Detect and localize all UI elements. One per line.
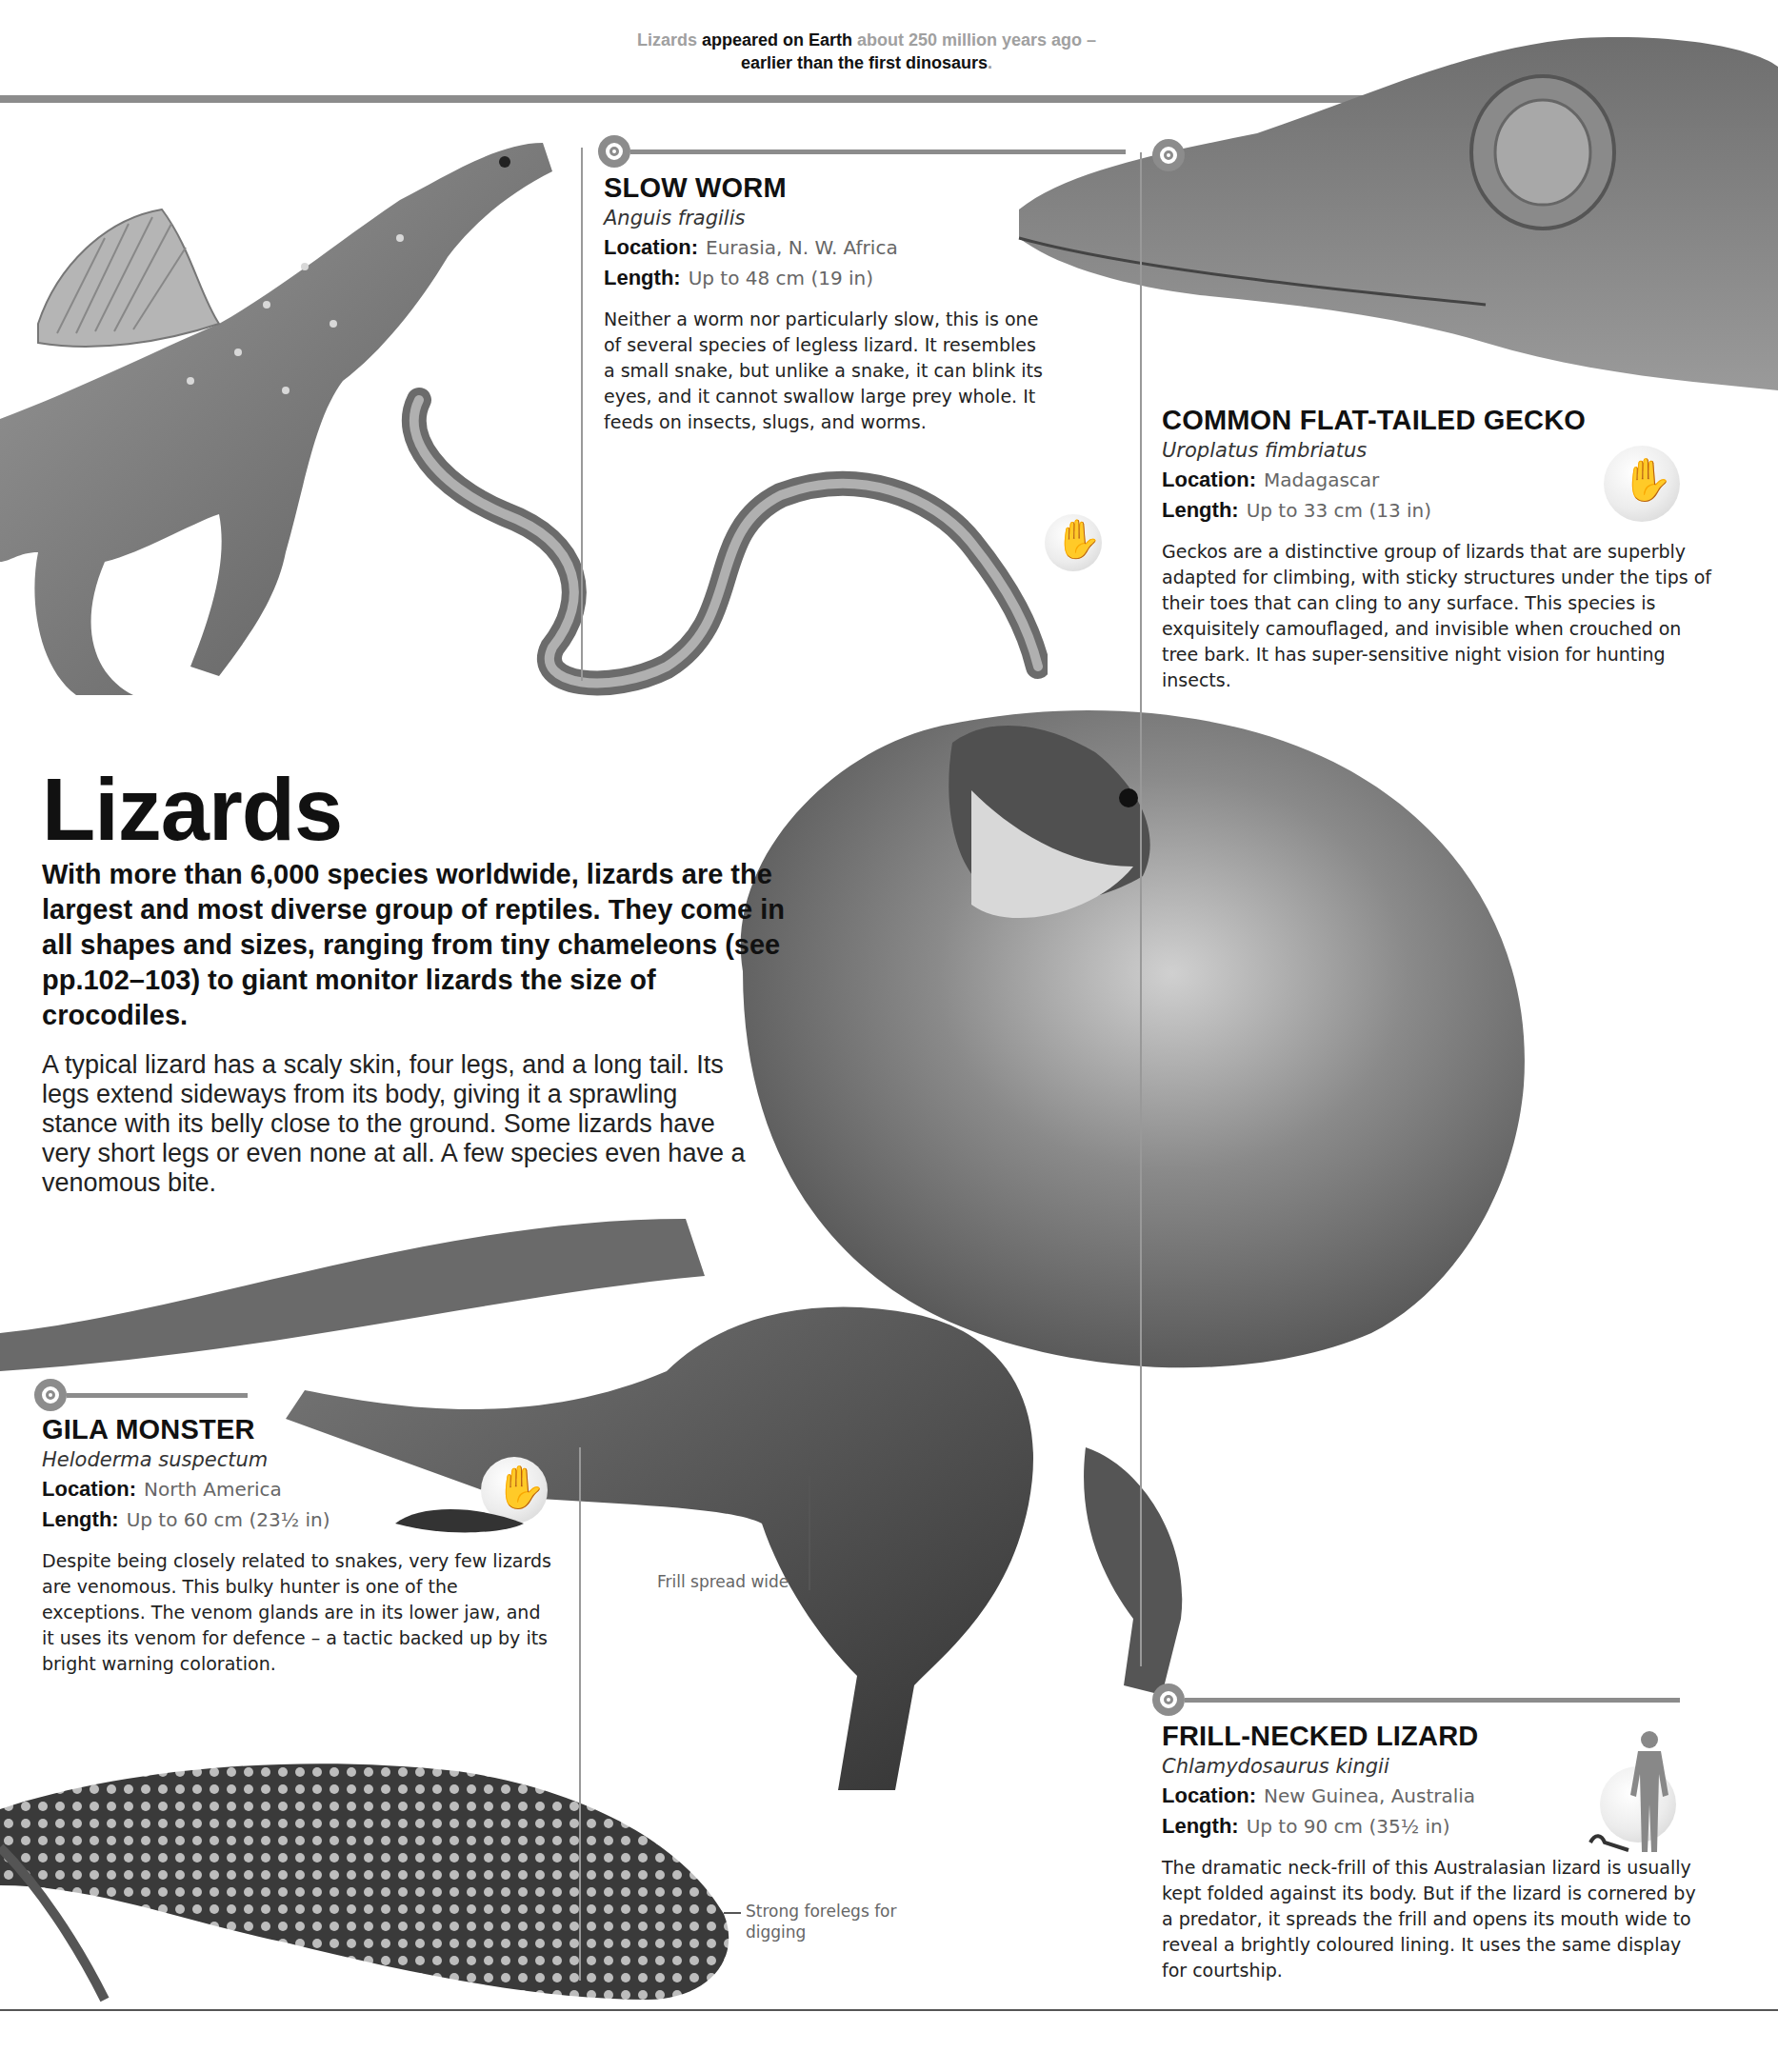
- caption-forelegs: Strong forelegs for digging: [746, 1901, 898, 1942]
- divider-line: [581, 148, 583, 681]
- marker-line: [630, 149, 1126, 154]
- entry-name: SLOW WORM: [604, 171, 1051, 204]
- gila-monster-image: [0, 1695, 781, 2019]
- gecko-marker: [1152, 139, 1185, 171]
- fact-part: Lizards: [637, 30, 702, 50]
- caption-pointer-line: [809, 1476, 810, 1590]
- hand-size-comparison-icon: ✋: [1604, 446, 1680, 522]
- marker-line: [67, 1393, 248, 1398]
- location-label: Location:: [1162, 468, 1256, 491]
- hand-icon: ✋: [1621, 459, 1673, 501]
- entry-name: COMMON FLAT-TAILED GECKO: [1162, 404, 1714, 436]
- length-value: Up to 33 cm (13 in): [1247, 499, 1431, 522]
- target-icon: [34, 1379, 67, 1411]
- hand-size-comparison-icon: ✋: [1045, 514, 1102, 571]
- location-value: Eurasia, N. W. Africa: [706, 236, 898, 259]
- page-title: Lizards: [42, 762, 342, 857]
- bottom-rule: [0, 2009, 1778, 2011]
- length-value: Up to 60 cm (23½ in): [127, 1508, 330, 1531]
- marker-line: [1185, 1698, 1680, 1703]
- length-label: Length:: [1162, 498, 1239, 522]
- entry-name: GILA MONSTER: [42, 1413, 556, 1445]
- divider-line: [579, 1447, 581, 1981]
- slow-worm-marker: [598, 135, 1126, 168]
- fact-part: appeared on Earth: [702, 30, 857, 50]
- fact-part: earlier than the first dinosaurs: [741, 53, 988, 72]
- length-value: Up to 90 cm (35½ in): [1247, 1815, 1450, 1838]
- entry-description: Despite being closely related to snakes,…: [42, 1548, 556, 1677]
- location-value: New Guinea, Australia: [1264, 1784, 1475, 1807]
- fact-part: .: [988, 53, 992, 72]
- target-icon: [1152, 1684, 1185, 1716]
- length-label: Length:: [1162, 1814, 1239, 1838]
- gila-monster-marker: [34, 1379, 248, 1411]
- length-value: Up to 48 cm (19 in): [689, 267, 873, 289]
- entry-description: The dramatic neck-frill of this Australa…: [1162, 1855, 1705, 1983]
- gecko-image: [1009, 29, 1778, 390]
- location-value: North America: [144, 1478, 282, 1501]
- gila-monster-entry: GILA MONSTER Heloderma suspectum Locatio…: [42, 1413, 556, 1677]
- entry-scientific-name: Heloderma suspectum: [42, 1445, 556, 1474]
- entry-length: Length:Up to 48 cm (19 in): [604, 263, 1051, 293]
- length-label: Length:: [604, 266, 681, 289]
- target-icon: [1152, 139, 1185, 171]
- intro-body: A typical lizard has a scaly skin, four …: [42, 1050, 747, 1198]
- caption-pointer-line: [724, 1912, 741, 1914]
- length-label: Length:: [42, 1507, 119, 1531]
- intro-lede: With more than 6,000 species worldwide, …: [42, 857, 785, 1033]
- entry-description: Geckos are a distinctive group of lizard…: [1162, 539, 1714, 693]
- location-label: Location:: [604, 235, 698, 259]
- divider-line: [1140, 152, 1142, 1666]
- gila-monster-thumbnail: [390, 1495, 533, 1543]
- location-value: Madagascar: [1264, 468, 1379, 491]
- frill-necked-marker: [1152, 1684, 1680, 1716]
- entry-scientific-name: Anguis fragilis: [604, 204, 1051, 232]
- human-figure-icon: [1581, 1728, 1695, 1862]
- location-label: Location:: [42, 1477, 136, 1501]
- entry-description: Neither a worm nor particularly slow, th…: [604, 307, 1051, 435]
- target-icon: [598, 135, 630, 168]
- entry-location: Location:Eurasia, N. W. Africa: [604, 232, 1051, 263]
- slow-worm-entry: SLOW WORM Anguis fragilis Location:Euras…: [604, 171, 1051, 435]
- hand-icon: ✋: [1054, 520, 1102, 558]
- caption-frill: Frill spread wide: [657, 1571, 789, 1592]
- location-label: Location:: [1162, 1783, 1256, 1807]
